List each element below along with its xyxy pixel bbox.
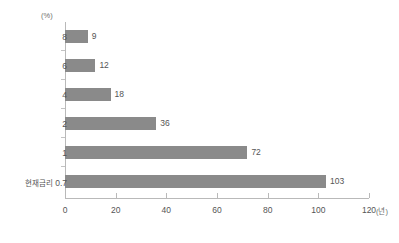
x-axis-tick-mark — [65, 193, 66, 198]
x-axis-tick-mark — [166, 193, 167, 198]
bar-rect[interactable] — [65, 88, 111, 101]
bar-rect[interactable] — [65, 59, 95, 72]
bar-value-label: 12 — [99, 60, 108, 70]
x-axis-line — [65, 198, 369, 199]
bar-row: 103 — [65, 175, 366, 188]
plot-area: (%) (년) 98126184362721103현재금리0.702040608… — [0, 0, 399, 243]
x-axis-tick-label: 40 — [162, 205, 171, 215]
y-axis-tick-mark — [61, 137, 65, 138]
y-axis-category-value: 6 — [62, 61, 67, 71]
x-axis-tick-mark — [217, 193, 218, 198]
y-axis-tick-label: 1 — [62, 148, 67, 158]
y-axis-tick-mark — [61, 166, 65, 167]
bar-row: 36 — [65, 117, 196, 130]
y-axis-category-value: 4 — [62, 90, 67, 100]
bar-value-label: 36 — [160, 118, 169, 128]
y-axis-tick-label: 8 — [62, 32, 67, 42]
bar-rect[interactable] — [65, 30, 88, 43]
y-axis-line — [65, 22, 66, 198]
bar-row: 72 — [65, 146, 287, 159]
y-axis-tick-mark — [61, 108, 65, 109]
bar-rect[interactable] — [65, 117, 156, 130]
y-axis-category-value: 2 — [62, 119, 67, 129]
bar-value-label: 72 — [251, 147, 260, 157]
y-axis-tick-mark — [61, 50, 65, 51]
y-axis-category-prefix: 현재금리 — [25, 179, 53, 188]
y-axis-tick-label: 4 — [62, 90, 67, 100]
y-axis-tick-label: 2 — [62, 119, 67, 129]
bar-rect[interactable] — [65, 175, 326, 188]
y-axis-category-value: 0.7 — [55, 178, 67, 188]
y-axis-category-value: 1 — [62, 148, 67, 158]
x-axis-tick-label: 80 — [263, 205, 272, 215]
y-axis-tick-label: 현재금리0.7 — [25, 177, 67, 188]
bar-rect[interactable] — [65, 146, 247, 159]
x-axis-tick-mark — [268, 193, 269, 198]
bar-chart: (%) (년) 98126184362721103현재금리0.702040608… — [0, 0, 399, 243]
x-axis-tick-label: 100 — [311, 205, 325, 215]
y-axis-unit-label: (%) — [41, 11, 53, 20]
x-axis-tick-mark — [369, 193, 370, 198]
bar-value-label: 9 — [92, 31, 97, 41]
x-axis-tick-mark — [116, 193, 117, 198]
bar-row: 12 — [65, 59, 135, 72]
x-axis-tick-label: 0 — [63, 205, 68, 215]
bar-value-label: 103 — [330, 176, 344, 186]
y-axis-tick-label: 6 — [62, 61, 67, 71]
x-axis-tick-label: 120 — [362, 205, 376, 215]
x-axis-tick-mark — [318, 193, 319, 198]
x-axis-unit-label: (년) — [376, 205, 388, 216]
y-axis-tick-mark — [61, 79, 65, 80]
bar-row: 18 — [65, 88, 151, 101]
x-axis-tick-label: 60 — [212, 205, 221, 215]
bar-value-label: 18 — [115, 89, 124, 99]
x-axis-tick-label: 20 — [111, 205, 120, 215]
y-axis-category-value: 8 — [62, 32, 67, 42]
bar-row: 9 — [65, 30, 128, 43]
